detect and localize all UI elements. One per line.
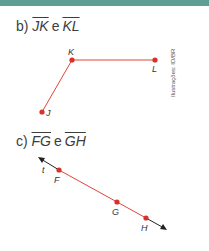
label-j: J	[45, 108, 51, 118]
item-label-c: c)	[16, 133, 28, 149]
point-j	[39, 109, 44, 114]
segment-fg-label: FG	[32, 133, 51, 149]
segment-jk	[42, 60, 72, 112]
label-t: t	[42, 165, 45, 175]
connector-c: e	[54, 133, 62, 149]
figure-b: K L J	[39, 47, 157, 118]
label-k: K	[68, 47, 75, 57]
geometry-figures: K L J t F G H	[0, 0, 209, 251]
segment-fh	[59, 170, 146, 218]
point-k	[69, 57, 74, 62]
point-h	[143, 215, 148, 220]
figure-c: t F G H	[38, 157, 167, 233]
point-l	[152, 57, 157, 62]
point-g	[114, 199, 119, 204]
arrow-right-icon	[160, 224, 167, 230]
heading-c: c) FGeGH	[16, 133, 86, 149]
segment-gh-label: GH	[65, 133, 86, 149]
label-h: H	[141, 223, 148, 233]
label-l: L	[152, 64, 157, 74]
line-t-right-part	[146, 218, 164, 228]
label-g: G	[112, 207, 119, 217]
label-f: F	[54, 175, 60, 185]
point-f	[56, 167, 61, 172]
arrow-left-icon	[38, 157, 45, 163]
